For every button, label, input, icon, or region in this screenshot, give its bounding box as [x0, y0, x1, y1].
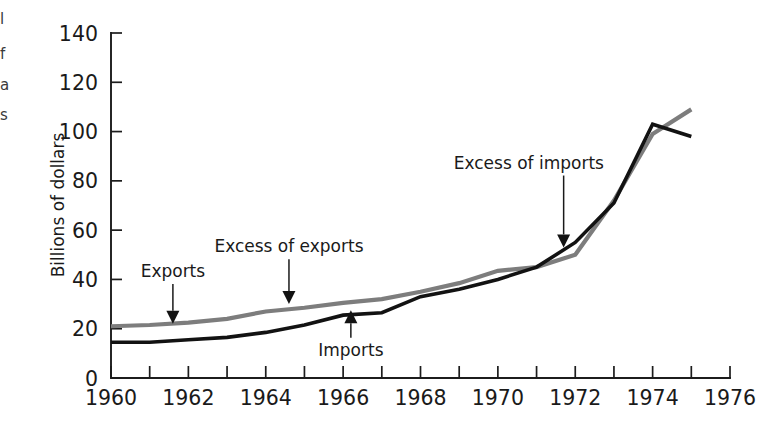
y-tick-label: 120: [59, 71, 98, 95]
x-tick-label: 1972: [549, 386, 601, 410]
x-tick-label: 1970: [472, 386, 524, 410]
annotation-label-imports: Imports: [318, 340, 383, 360]
series-line-imports: [111, 124, 691, 342]
x-tick-label: 1960: [85, 386, 137, 410]
chart-figure: l f a s 020406080100120140 1960196219641…: [0, 0, 759, 443]
chart-axes: [111, 33, 730, 378]
x-tick-label: 1976: [704, 386, 756, 410]
y-tick-label: 20: [72, 317, 98, 341]
x-tick-label: 1968: [394, 386, 446, 410]
y-tick-label: 40: [72, 268, 98, 292]
chart-annotations: ExportsExcess of exportsExcess of import…: [141, 153, 604, 360]
annotation-label-excess-of-imports: Excess of imports: [454, 153, 604, 173]
y-tick-label: 60: [72, 219, 98, 243]
x-tick-label: 1974: [627, 386, 679, 410]
x-axis-ticks: 196019621964196619681970197219741976: [85, 366, 756, 410]
annotation-label-excess-of-exports: Excess of exports: [214, 236, 363, 256]
x-tick-label: 1964: [240, 386, 292, 410]
y-axis-title: Billions of dollars: [48, 133, 68, 278]
y-axis-ticks: 020406080100120140: [59, 22, 122, 391]
series-line-exports: [111, 109, 691, 326]
x-tick-label: 1962: [162, 386, 214, 410]
annotation-label-exports: Exports: [141, 261, 206, 281]
y-tick-label: 80: [72, 169, 98, 193]
annotation-arrowhead-excess-of-exports: [282, 291, 295, 304]
line-chart: 020406080100120140 196019621964196619681…: [0, 0, 759, 443]
y-tick-label: 140: [59, 22, 98, 46]
x-tick-label: 1966: [317, 386, 369, 410]
